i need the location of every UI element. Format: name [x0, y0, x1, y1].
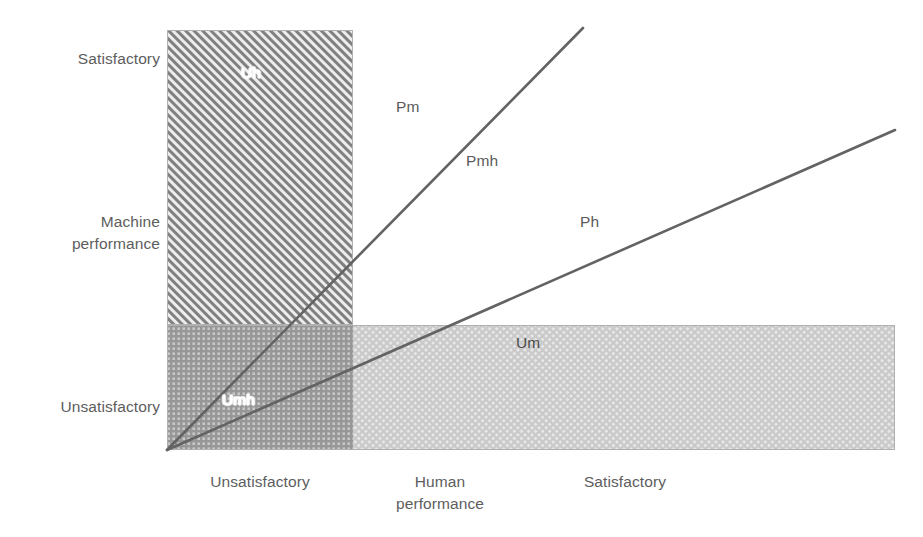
curve-label-pmh: Pmh: [466, 152, 498, 170]
y-axis-title-line2: performance: [72, 235, 160, 252]
region-label-um: Um: [516, 334, 540, 352]
y-axis-label-satisfactory: Satisfactory: [0, 48, 160, 70]
x-axis-label-satisfactory: Satisfactory: [530, 471, 720, 493]
region-um: [353, 325, 895, 450]
diagram-canvas: [0, 0, 923, 537]
x-axis-title: Humanperformance: [360, 471, 520, 515]
y-axis-title-line1: Machine: [101, 213, 160, 230]
x-axis-label-unsatisfactory: Unsatisfactory: [165, 471, 355, 493]
y-axis-label-unsatisfactory: Unsatisfactory: [0, 396, 160, 418]
performance-diagram: Satisfactory Machineperformance Unsatisf…: [0, 0, 923, 537]
x-axis-title-line1: Human: [415, 473, 465, 490]
curve-label-ph: Ph: [580, 213, 599, 231]
region-umh: [167, 325, 353, 450]
region-label-uh: Uh: [241, 64, 261, 82]
region-label-umh: Umh: [222, 391, 255, 409]
x-axis-title-line2: performance: [396, 495, 484, 512]
curve-label-pm: Pm: [396, 98, 419, 116]
y-axis-title: Machineperformance: [0, 211, 160, 255]
